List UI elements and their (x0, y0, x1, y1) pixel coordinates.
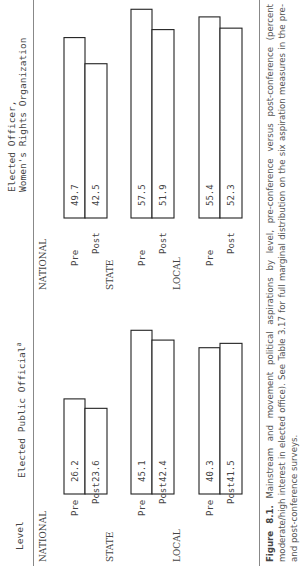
category-label-left-state-pre: Pre (137, 500, 147, 516)
category-label-right-local-pre: Pre (205, 250, 215, 266)
value-label-public-official-national-post: 23.6 (91, 460, 101, 482)
category-label-left-state-post: Post (158, 482, 168, 504)
bar-chart: NATIONALPre26.2Post23.6STATEPre45.1Post4… (0, 0, 305, 566)
category-label-left-national-post: Post (91, 482, 101, 504)
category-label-right-national-pre: Pre (70, 250, 80, 266)
value-label-womens-org-state-post: 51.9 (158, 184, 168, 206)
category-label-right-state-post: Post (158, 232, 168, 254)
value-label-womens-org-local-post: 52.3 (226, 184, 236, 206)
value-label-womens-org-state-pre: 57.5 (137, 184, 147, 206)
group-label-national: NATIONAL (38, 511, 48, 562)
group-label-right-local: LOCAL (172, 257, 182, 290)
figure-caption: Figure 8.1. Mainstream and movement poli… (264, 4, 300, 562)
value-label-womens-org-national-pre: 49.7 (70, 184, 80, 206)
category-label-left-national-pre: Pre (70, 500, 80, 516)
value-label-public-official-state-pre: 45.1 (137, 460, 147, 482)
figure-label: Figure 8.1. (265, 505, 275, 562)
value-label-public-official-local-post: 41.5 (226, 460, 236, 482)
group-label-local: LOCAL (172, 529, 182, 562)
value-label-public-official-local-pre: 40.3 (205, 460, 215, 482)
value-label-public-official-state-post: 42.4 (158, 460, 168, 482)
category-label-right-local-post: Post (226, 232, 236, 254)
category-label-left-local-post: Post (226, 482, 236, 504)
value-label-womens-org-national-post: 42.5 (91, 184, 101, 206)
group-label-state: STATE (105, 532, 115, 562)
rotated-figure-page: Level Elected Public Officiala Elected O… (0, 0, 305, 566)
group-label-right-state: STATE (105, 260, 115, 290)
category-label-left-local-pre: Pre (205, 500, 215, 516)
category-label-right-national-post: Post (91, 232, 101, 254)
category-label-right-state-pre: Pre (137, 250, 147, 266)
group-label-right-national: NATIONAL (38, 239, 48, 290)
caption-text: Mainstream and movement political aspira… (265, 4, 299, 562)
value-label-public-official-national-pre: 26.2 (70, 460, 80, 482)
value-label-womens-org-local-pre: 55.4 (205, 184, 215, 206)
